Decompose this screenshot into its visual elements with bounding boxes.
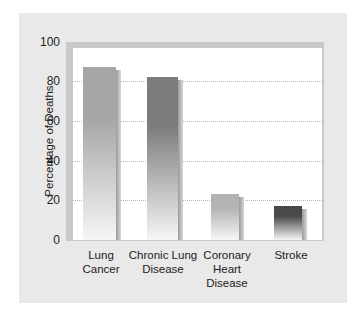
bar [147, 77, 178, 240]
y-tick-label: 0 [30, 234, 60, 246]
bar-side [116, 70, 121, 240]
bar-side [239, 197, 244, 240]
bar-side [302, 209, 307, 240]
x-tick-label-line: Disease [187, 276, 267, 290]
bar-face [83, 67, 116, 240]
x-tick-label-line: Stroke [251, 248, 331, 262]
y-axis-label: Percentage of Deaths [43, 76, 55, 206]
bar-face [274, 206, 302, 240]
bar [83, 67, 116, 240]
bar-face [211, 194, 239, 240]
bar-face [147, 77, 178, 240]
y-tick-label: 100 [30, 36, 60, 48]
x-tick-label: Stroke [251, 248, 331, 262]
bar [211, 194, 239, 240]
bar-side [178, 80, 183, 240]
x-tick-label-line: Heart [187, 262, 267, 276]
bar [274, 206, 302, 240]
